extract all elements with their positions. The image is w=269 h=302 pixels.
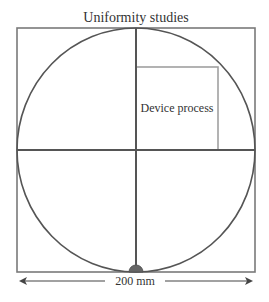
diagram-title: Uniformity studies [83,10,188,25]
wafer-notch [129,265,143,272]
device-process-label: Device process [141,101,214,115]
wafer-diagram: Uniformity studies Device process 200 mm [0,0,269,302]
dimension-label: 200 mm [115,274,155,288]
